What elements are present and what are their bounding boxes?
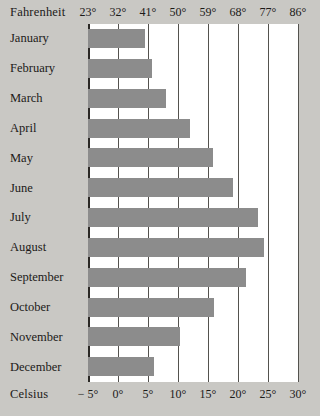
month-label-january: January xyxy=(10,24,49,54)
month-label-october: October xyxy=(10,293,50,323)
fahrenheit-tick-label: 59° xyxy=(200,5,217,20)
celsius-tick-label: 25° xyxy=(260,387,277,402)
bar xyxy=(88,357,154,376)
fahrenheit-axis: Fahrenheit 23°32°41°50°59°68°77°86° xyxy=(0,0,320,24)
celsius-tick-label: 5° xyxy=(143,387,154,402)
bar xyxy=(88,178,233,197)
bar xyxy=(88,89,166,108)
bar xyxy=(88,148,213,167)
month-label-february: February xyxy=(10,54,55,84)
celsius-tick-label: 30° xyxy=(290,387,307,402)
celsius-axis: Celsius − 5°0°5°10°15°20°25°30° xyxy=(0,382,320,406)
fahrenheit-tick-label: 41° xyxy=(140,5,157,20)
celsius-tick-label: 15° xyxy=(200,387,217,402)
bar xyxy=(88,119,190,138)
month-label-november: November xyxy=(10,322,63,352)
bar xyxy=(88,208,258,227)
bar-row xyxy=(88,233,298,263)
bar-row xyxy=(88,293,298,323)
month-label-may: May xyxy=(10,143,33,173)
bar-row xyxy=(88,352,298,382)
bar xyxy=(88,298,214,317)
bar-row xyxy=(88,84,298,114)
fahrenheit-tick-label: 32° xyxy=(110,5,127,20)
month-label-july: July xyxy=(10,203,31,233)
fahrenheit-tick-label: 77° xyxy=(260,5,277,20)
fahrenheit-tick-label: 86° xyxy=(290,5,307,20)
bar-row xyxy=(88,203,298,233)
bar-row xyxy=(88,114,298,144)
bar xyxy=(88,59,152,78)
celsius-tick-label: 0° xyxy=(113,387,124,402)
month-label-september: September xyxy=(10,263,63,293)
fahrenheit-axis-label: Fahrenheit xyxy=(10,5,65,20)
month-label-december: December xyxy=(10,352,61,382)
bar xyxy=(88,238,264,257)
month-label-august: August xyxy=(10,233,46,263)
celsius-tick-label: 20° xyxy=(230,387,247,402)
bar-row xyxy=(88,54,298,84)
temperature-bar-chart: Fahrenheit 23°32°41°50°59°68°77°86° Janu… xyxy=(0,0,320,416)
celsius-axis-label: Celsius xyxy=(10,387,48,402)
month-label-april: April xyxy=(10,114,36,144)
bar-series xyxy=(88,24,298,382)
month-label-june: June xyxy=(10,173,33,203)
bar xyxy=(88,327,180,346)
bar-row xyxy=(88,263,298,293)
gridline xyxy=(298,24,299,382)
celsius-tick-label: − 5° xyxy=(78,387,99,402)
bar xyxy=(88,29,145,48)
fahrenheit-tick-label: 68° xyxy=(230,5,247,20)
month-label-march: March xyxy=(10,84,43,114)
bar xyxy=(88,268,246,287)
plot-area xyxy=(88,24,298,382)
fahrenheit-tick-label: 50° xyxy=(170,5,187,20)
bar-row xyxy=(88,173,298,203)
celsius-tick-label: 10° xyxy=(170,387,187,402)
bar-row xyxy=(88,322,298,352)
month-label-column: JanuaryFebruaryMarchAprilMayJuneJulyAugu… xyxy=(0,24,88,382)
bar-row xyxy=(88,143,298,173)
bar-row xyxy=(88,24,298,54)
fahrenheit-tick-label: 23° xyxy=(80,5,97,20)
